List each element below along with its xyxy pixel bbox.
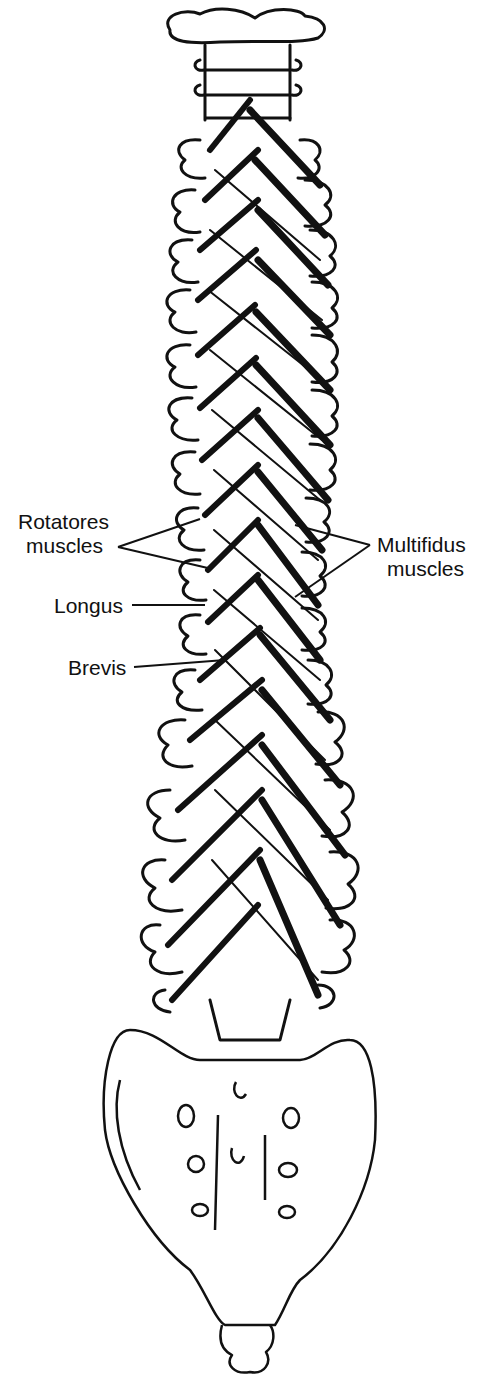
rotatores-label: Rotatores muscles [18,510,116,558]
sacrum [104,1030,376,1373]
brevis-label: Brevis [68,656,126,680]
multifidus-label: Multifidus muscles [377,533,497,581]
rotatores-leader-upper [118,519,200,547]
multifidus-label-line2: muscles [377,557,497,581]
longus-label: Longus [54,594,123,618]
rotatores-label-line2: muscles [18,534,116,558]
rotatores-label-line1: Rotatores [18,510,116,534]
multifidus-label-line1: Multifidus [377,533,497,557]
spine-diagram [0,0,499,1396]
brevis-leader [134,660,225,667]
